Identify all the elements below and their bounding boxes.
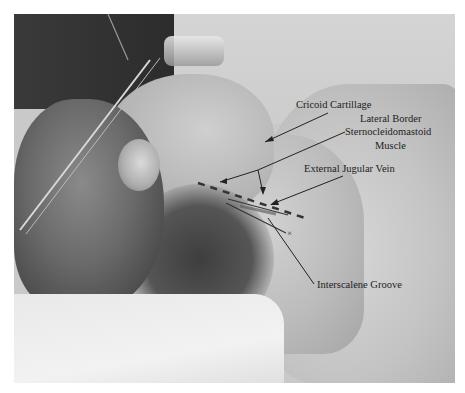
annotation-lines: × [0,0,465,393]
label-sternocleidomastoid: Sternocleidomastoid [345,126,431,138]
label-muscle: Muscle [375,140,406,152]
label-external-jugular-vein: External Jugular Vein [304,163,395,175]
label-lateral-border: Lateral Border [360,113,422,125]
label-interscalene-groove: Interscalene Groove [317,279,402,291]
label-cricoid-cartilage: Cricoid Cartillage [296,99,372,111]
svg-text:×: × [287,228,292,238]
